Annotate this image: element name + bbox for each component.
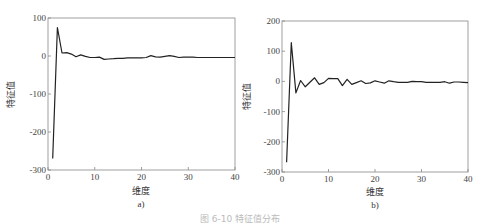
x-axis-label-a: 维度 [132,185,150,196]
x-ticks-b: 010203040 [280,169,473,184]
y-axis-label-b: 特征值 [241,83,252,110]
x-tick-label: 30 [417,174,427,184]
plot-frame-a [48,18,235,170]
y-tick-label: -300 [264,167,281,177]
data-line-a [53,28,235,159]
x-axis-label-b: 维度 [366,186,384,197]
y-tick-label: 200 [267,16,281,26]
x-tick-label: 40 [464,174,474,184]
x-tick-label: 20 [371,174,381,184]
x-tick-label: 10 [324,174,334,184]
y-tick-label: -200 [30,127,47,137]
chart-a: 1000-100-200-300 010203040 特征值 维度 a) [5,13,240,209]
x-tick-label: 20 [137,172,147,182]
y-tick-label: 100 [33,13,47,23]
x-tick-label: 30 [184,172,194,182]
figure: 1000-100-200-300 010203040 特征值 维度 a) 200… [0,0,483,224]
x-ticks-a: 010203040 [46,167,240,182]
panel-label-a: a) [138,199,145,209]
y-axis-label-a: 特征值 [5,81,16,108]
y-tick-label: -200 [264,137,281,147]
x-tick-label: 10 [90,172,100,182]
x-tick-label: 0 [46,172,51,182]
figure-caption: 图 6-10 特征值分布 [200,213,280,224]
x-tick-label: 40 [231,172,241,182]
y-tick-label: -100 [264,107,281,117]
plot-frame-b [282,21,468,172]
y-tick-label: -100 [30,89,47,99]
y-tick-label: 100 [267,46,281,56]
x-tick-label: 0 [280,174,285,184]
chart-b: 2001000-100-200-300 010203040 特征值 维度 b) [241,16,473,210]
y-tick-label: 0 [42,51,47,61]
y-tick-label: -300 [30,165,47,175]
data-line-b [287,43,468,163]
y-tick-label: 0 [276,76,281,86]
panel-label-b: b) [371,200,379,210]
